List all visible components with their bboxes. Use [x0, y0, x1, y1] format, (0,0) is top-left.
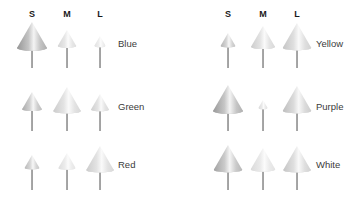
cone-marker-purple-l: [269, 71, 325, 131]
cone-stem: [296, 171, 297, 190]
cone-stem: [227, 47, 228, 68]
cone-stem: [296, 112, 297, 131]
cone-group-right: SMLYellowPurpleWhite: [0, 0, 361, 197]
cone-stem: [296, 49, 297, 68]
cone-body: [259, 100, 268, 111]
cone-marker-white-l: [269, 130, 325, 190]
cone-stem: [262, 109, 263, 131]
cone-body: [283, 23, 312, 51]
cone-stem: [227, 171, 228, 190]
cone-stem: [227, 112, 228, 131]
cone-body: [221, 33, 236, 49]
cone-body: [283, 146, 311, 173]
cone-stem: [262, 48, 263, 68]
cone-marker-yellow-l: [269, 8, 325, 68]
cone-stem: [262, 170, 263, 190]
cone-body: [283, 86, 312, 114]
figure-canvas: SMLBlueGreenRedSMLYellowPurpleWhite: [0, 0, 361, 197]
